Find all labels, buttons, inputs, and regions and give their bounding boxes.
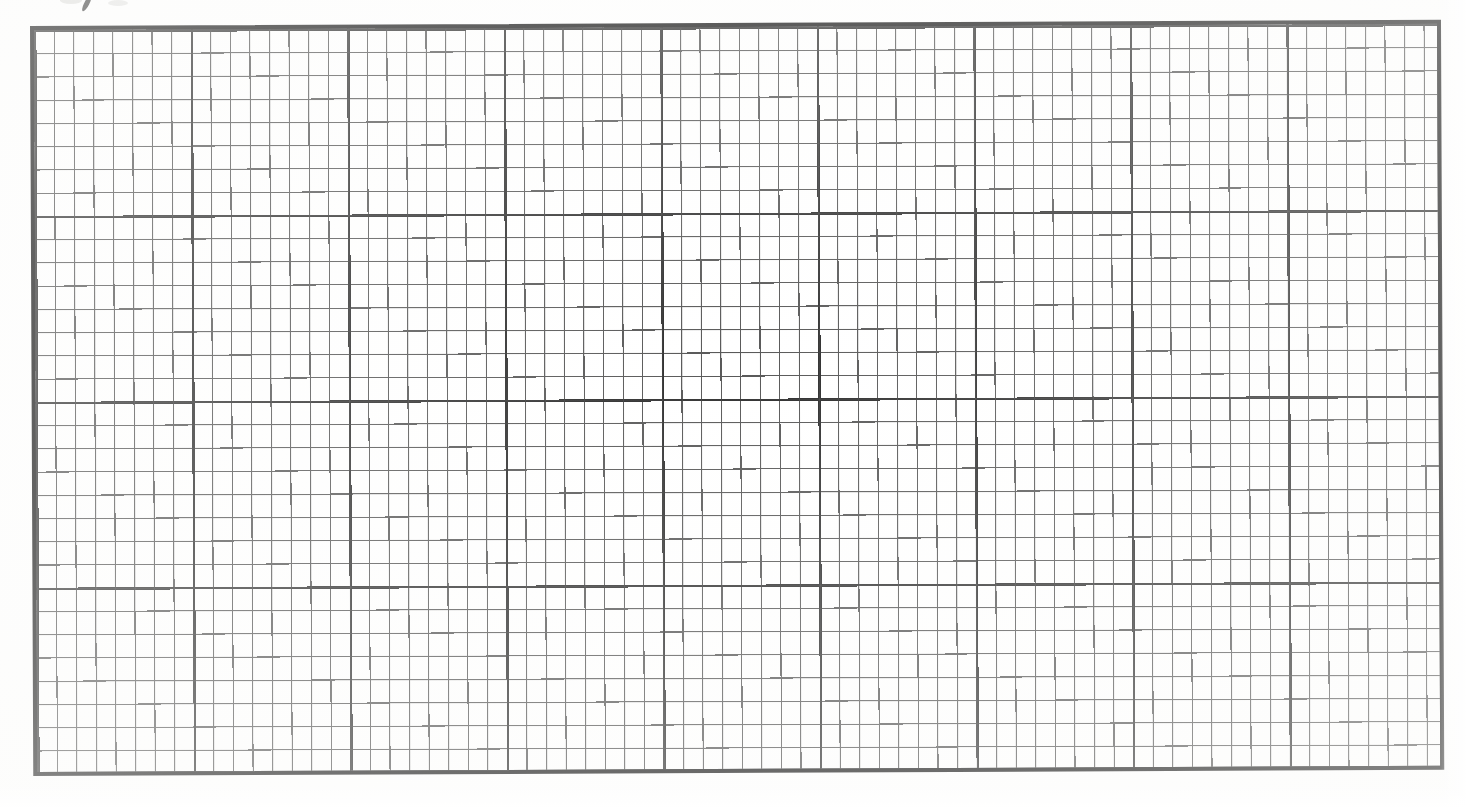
scan-bottom-fade	[0, 783, 1466, 807]
graph-grid	[31, 21, 1443, 775]
scan-right-fade	[1440, 0, 1466, 807]
graph-grid-lines	[31, 21, 1443, 775]
top-edge-ink-mark	[81, 0, 93, 12]
graph-grid-ghost-lines	[34, 24, 1440, 772]
page-title: Blank graph paper grid	[0, 21, 1, 22]
grid-description: Empty scanned graph paper: rectangular r…	[0, 0, 1, 1]
top-edge-smudge-right	[108, 0, 128, 6]
top-edge-smudge-left	[60, 0, 82, 4]
graph-paper-page: Blank graph paper grid Empty scanned gra…	[0, 0, 1466, 807]
